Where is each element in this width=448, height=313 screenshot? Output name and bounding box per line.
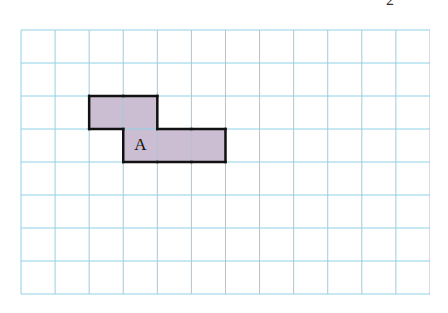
shape-a-cell	[157, 129, 192, 163]
square-grid	[20, 29, 430, 295]
shape-a-cell	[123, 96, 158, 130]
page-number: 2	[386, 0, 394, 9]
grid-canvas	[20, 29, 430, 295]
shape-a-cell	[89, 96, 124, 130]
shape-a-label: A	[134, 135, 146, 155]
shape-a-cell	[191, 129, 226, 163]
